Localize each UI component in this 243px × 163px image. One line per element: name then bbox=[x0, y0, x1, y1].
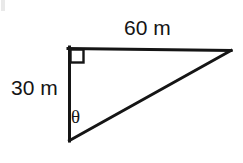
triangle-diagram: 60 m 30 m θ bbox=[0, 0, 243, 163]
hypotenuse-line bbox=[70, 51, 232, 141]
top-side-length-label: 60 m bbox=[124, 17, 171, 38]
horizontal-leg-line bbox=[68, 49, 231, 51]
left-side-length-label: 30 m bbox=[11, 77, 58, 98]
theta-angle-label: θ bbox=[71, 107, 80, 126]
right-angle-marker-icon bbox=[71, 50, 84, 63]
